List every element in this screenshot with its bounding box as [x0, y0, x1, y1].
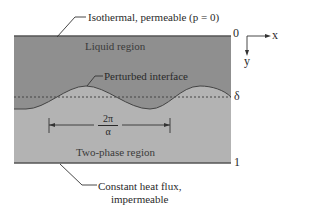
- wavelength-label: 2π α: [98, 114, 118, 137]
- wavelength-denominator: α: [98, 126, 118, 137]
- two-phase-region-label: Two-phase region: [76, 146, 155, 158]
- axis-y-label: y: [244, 55, 250, 67]
- bottom-boundary-label-line2: impermeable: [98, 193, 181, 206]
- top-boundary-label: Isothermal, permeable (p = 0): [88, 11, 219, 23]
- depth-marker-bottom: 1: [234, 156, 240, 168]
- bottom-boundary-label: Constant heat flux, impermeable: [98, 180, 181, 206]
- depth-marker-interface: δ: [234, 90, 240, 102]
- bottom-boundary-leader: [60, 164, 97, 185]
- axis-x-label: x: [272, 29, 278, 41]
- liquid-region-label: Liquid region: [85, 40, 145, 52]
- bottom-boundary-label-line1: Constant heat flux,: [98, 180, 181, 193]
- wavelength-numerator: 2π: [98, 114, 118, 126]
- perturbed-interface-label: Perturbed interface: [104, 70, 188, 82]
- coordinate-axes-icon: [245, 34, 271, 56]
- top-boundary-leader: [57, 17, 86, 37]
- depth-marker-top: 0: [233, 27, 239, 39]
